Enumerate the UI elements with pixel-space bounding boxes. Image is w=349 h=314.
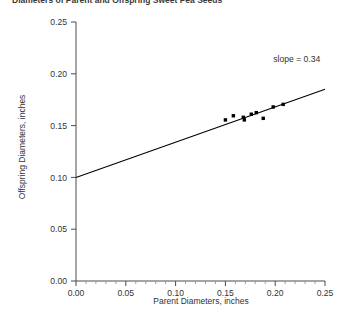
data-point <box>243 118 246 121</box>
y-axis-ticks <box>71 22 76 281</box>
x-tick-label: 0.25 <box>317 288 334 298</box>
x-tick-label: 0.10 <box>167 288 184 298</box>
y-tick-label: 0.15 <box>50 121 67 131</box>
scatter-chart-figure: Diameters of Parent and Offspring Sweet … <box>0 0 349 314</box>
data-points <box>224 103 285 122</box>
regression-line <box>76 89 325 177</box>
data-point <box>232 114 235 117</box>
y-tick-label: 0.05 <box>50 224 67 234</box>
x-tick-label: 0.05 <box>117 288 134 298</box>
x-axis-ticks <box>76 281 325 286</box>
data-point <box>250 113 253 116</box>
y-tick-label: 0.00 <box>50 276 67 286</box>
y-tick-label: 0.20 <box>50 69 67 79</box>
x-tick-label: 0.20 <box>267 288 284 298</box>
data-point <box>262 117 265 120</box>
x-tick-label: 0.15 <box>217 288 234 298</box>
fit-line <box>76 89 325 177</box>
data-point <box>255 111 258 114</box>
data-point <box>272 105 275 108</box>
plot-area: 0.000.050.100.150.200.25 0.000.050.100.1… <box>0 0 349 314</box>
data-point <box>281 103 284 106</box>
slope-annotation: slope = 0.34 <box>273 54 320 64</box>
y-axis-tick-labels: 0.000.050.100.150.200.25 <box>50 17 67 286</box>
y-tick-label: 0.25 <box>50 17 67 27</box>
x-tick-label: 0.00 <box>68 288 85 298</box>
y-tick-label: 0.10 <box>50 173 67 183</box>
x-axis-tick-labels: 0.000.050.100.150.200.25 <box>68 288 334 298</box>
chart-annotations: slope = 0.34 <box>273 54 320 64</box>
data-point <box>224 118 227 121</box>
